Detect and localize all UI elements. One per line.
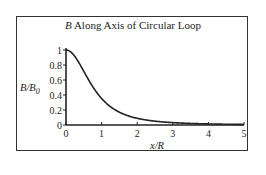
x-tick-label: 0 (64, 128, 69, 139)
y-tick-label: 0.2 (50, 105, 63, 116)
y-tick-label: 1 (57, 45, 62, 56)
y-tick-label: 0.8 (50, 60, 63, 71)
y-tick-label: 0.4 (50, 90, 63, 101)
plot-area: 00.20.40.60.81012345x/RB/B0 (0, 0, 266, 175)
y-tick-label: 0.6 (50, 75, 63, 86)
data-curve (66, 50, 244, 124)
x-tick-label: 4 (206, 128, 211, 139)
y-tick-label: 0 (57, 120, 62, 131)
x-tick-label: 3 (170, 128, 175, 139)
x-axis-label: x/R (149, 140, 165, 151)
x-tick-label: 2 (135, 128, 140, 139)
y-axis-label: B/B0 (20, 82, 40, 96)
x-tick-label: 5 (242, 128, 247, 139)
x-tick-label: 1 (99, 128, 104, 139)
